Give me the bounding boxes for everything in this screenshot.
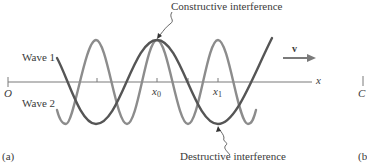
panel-label-b-fragment: (b xyxy=(358,151,367,162)
origin-label: O xyxy=(4,88,12,99)
constructive-pointer xyxy=(160,12,172,35)
velocity-arrowhead-icon xyxy=(307,54,316,62)
next-panel-origin-fragment: C xyxy=(358,88,365,99)
panel-label-a: (a) xyxy=(2,151,14,162)
destructive-arrowhead-icon xyxy=(216,126,221,132)
velocity-label: v xyxy=(292,44,297,54)
tick-label-x1: x1 xyxy=(213,86,222,99)
tick-label-x0: x0 xyxy=(152,86,161,99)
constructive-label: Constructive interference xyxy=(171,1,282,12)
wave-1-label: Wave 1 xyxy=(22,52,55,63)
destructive-label: Destructive interference xyxy=(180,151,286,162)
x-axis-label: x xyxy=(316,75,321,86)
wave-2-label: Wave 2 xyxy=(22,98,55,109)
